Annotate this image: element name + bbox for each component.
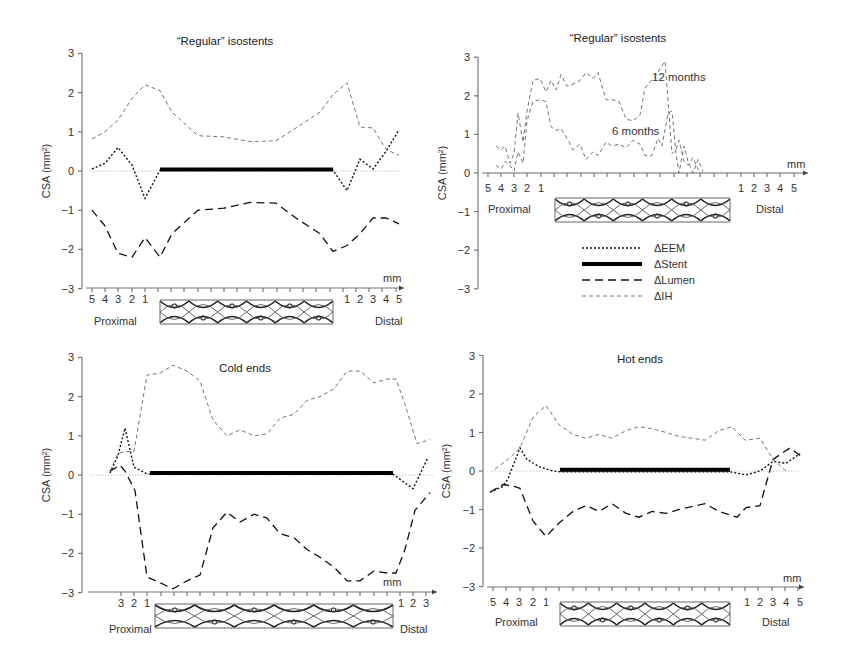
- x-tick-label: 5: [490, 596, 496, 608]
- x-tick-label: 1: [744, 596, 750, 608]
- chart-title: Cold ends: [219, 362, 271, 374]
- x-tick-label: 1: [144, 597, 150, 609]
- y-tick-label: −2: [457, 244, 470, 256]
- x-tick-label: 2: [129, 293, 135, 305]
- chart-panel-hot-ends: Hot ends3210−1−2−3CSA (mm²)5432112345mmP…: [440, 350, 804, 629]
- legend-label: ΔEEM: [654, 242, 685, 254]
- x-tick-label: 4: [503, 596, 509, 608]
- x-tick-label: 2: [131, 597, 137, 609]
- distal-label: Distal: [756, 203, 784, 215]
- y-tick-label: 2: [68, 391, 74, 403]
- y-tick-label: 2: [464, 90, 470, 102]
- x-tick-label: 1: [538, 182, 544, 194]
- x-tick-label: 4: [783, 596, 789, 608]
- chart-title: “Regular” isostents: [570, 32, 667, 44]
- y-tick-label: 1: [68, 126, 74, 138]
- series-ih: [110, 365, 430, 471]
- y-tick-label: −3: [457, 283, 470, 295]
- y-tick-label: 1: [469, 427, 475, 439]
- x-unit-label: mm: [383, 576, 401, 588]
- proximal-label: Proximal: [495, 616, 538, 628]
- legend-label: ΔStent: [654, 258, 687, 270]
- y-axis-title: CSA (mm²): [40, 144, 52, 198]
- chart-panel-regular-isostents-right: “Regular” isostents3210−1−2−3CSA (mm²)54…: [436, 32, 808, 295]
- x-tick-label: 5: [396, 293, 402, 305]
- y-tick-label: 3: [68, 351, 74, 363]
- series-eem: [110, 428, 428, 489]
- x-axis: 321123: [88, 590, 437, 610]
- y-tick-label: 3: [464, 51, 470, 63]
- x-tick-label: 2: [751, 182, 757, 194]
- x-tick-label: 4: [102, 293, 108, 305]
- legend-label: ΔIH: [654, 290, 672, 302]
- y-tick-label: −3: [61, 587, 74, 599]
- legend-item-stent: ΔStent: [582, 258, 687, 270]
- x-tick-label: 1: [142, 293, 148, 305]
- stent-illustration-icon: [560, 602, 730, 626]
- x-tick-label: 1: [738, 182, 744, 194]
- x-axis-arrow-icon: [432, 590, 437, 595]
- stent-illustration-icon: [160, 300, 333, 324]
- proximal-label: Proximal: [109, 623, 152, 635]
- figure-canvas: “Regular” isostents3210−1−2−3CSA (mm²)54…: [0, 0, 851, 668]
- y-axis-title: CSA (mm²): [436, 146, 448, 200]
- x-tick-label: 3: [511, 182, 517, 194]
- legend-item-eem: ΔEEM: [582, 242, 685, 254]
- y-tick-label: 0: [464, 167, 470, 179]
- x-tick-label: 1: [398, 597, 404, 609]
- y-axis-title: CSA (mm²): [440, 444, 452, 498]
- x-axis-arrow-icon: [799, 585, 804, 590]
- x-tick-label: 3: [118, 597, 124, 609]
- x-tick-label: 4: [498, 182, 504, 194]
- legend-item-lumen: ΔLumen: [582, 274, 695, 286]
- series-ih: [92, 83, 399, 156]
- y-tick-label: 3: [68, 47, 74, 59]
- x-tick-label: 4: [777, 182, 783, 194]
- x-tick-label: 3: [770, 596, 776, 608]
- chart-legend: ΔEEMΔStentΔLumenΔIH: [582, 242, 695, 302]
- series-annotation: 6 months: [612, 125, 660, 137]
- y-tick-label: 1: [464, 128, 470, 140]
- series-lumen: [490, 448, 800, 537]
- series-eem: [92, 130, 399, 199]
- y-tick-label: 1: [68, 430, 74, 442]
- x-tick-label: 3: [115, 293, 121, 305]
- distal-label: Distal: [375, 315, 403, 327]
- y-tick-label: −1: [61, 508, 74, 520]
- x-tick-label: 3: [423, 597, 429, 609]
- x-tick-label: 2: [524, 182, 530, 194]
- stent-illustration-icon: [555, 198, 730, 222]
- series-lumen: [92, 202, 399, 257]
- y-tick-label: −1: [462, 504, 475, 516]
- legend-label: ΔLumen: [654, 274, 695, 286]
- chart-panel-regular-isostents-left: “Regular” isostents3210−1−2−3CSA (mm²)54…: [40, 35, 404, 327]
- x-tick-label: 5: [797, 596, 803, 608]
- stent-illustration-icon: [155, 604, 393, 628]
- x-tick-label: 3: [764, 182, 770, 194]
- x-tick-label: 2: [357, 293, 363, 305]
- x-axis: 5432112345: [482, 171, 808, 195]
- x-tick-label: 2: [757, 596, 763, 608]
- x-unit-label: mm: [383, 272, 401, 284]
- y-tick-label: 0: [469, 465, 475, 477]
- chart-panel-cold-ends: Cold ends3210−1−2−3CSA (mm²)321123mmProx…: [40, 351, 437, 635]
- x-unit-label: mm: [787, 158, 805, 170]
- y-tick-label: 2: [469, 388, 475, 400]
- x-tick-label: 2: [530, 596, 536, 608]
- y-axis-title: CSA (mm²): [40, 448, 52, 502]
- x-unit-label: mm: [783, 572, 801, 584]
- x-tick-label: 5: [791, 182, 797, 194]
- y-tick-label: −3: [61, 283, 74, 295]
- distal-label: Distal: [762, 616, 790, 628]
- chart-title: Hot ends: [617, 353, 663, 365]
- y-tick-label: −3: [462, 581, 475, 593]
- y-tick-label: −2: [61, 547, 74, 559]
- x-tick-label: 3: [370, 293, 376, 305]
- y-tick-label: −1: [457, 206, 470, 218]
- distal-label: Distal: [400, 623, 428, 635]
- series-annotation: 12 months: [652, 71, 706, 83]
- x-tick-label: 3: [516, 596, 522, 608]
- series-lumen: [110, 465, 430, 589]
- legend-item-ih: ΔIH: [582, 290, 672, 302]
- x-tick-label: 4: [383, 293, 389, 305]
